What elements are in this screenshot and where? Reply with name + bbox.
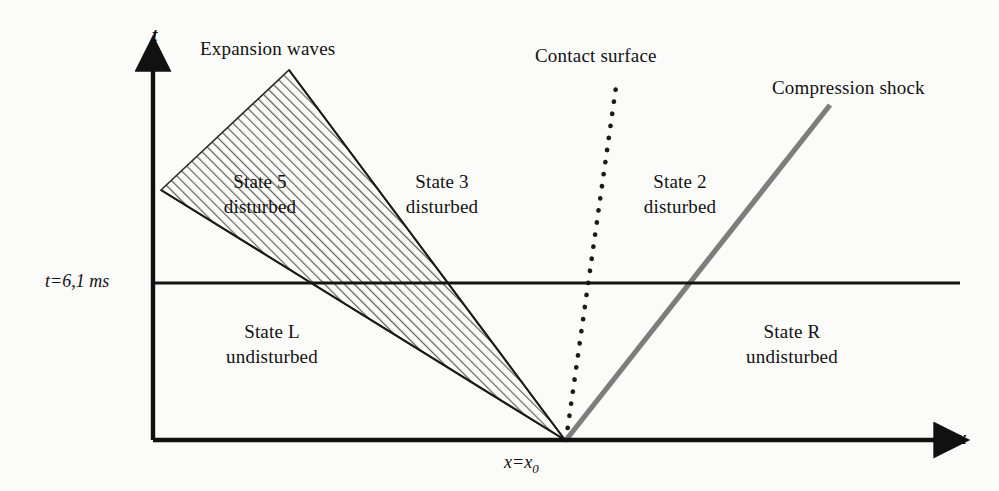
region-label-state-2: State 2 disturbed xyxy=(616,169,744,219)
region-label-state-l-line1: State L xyxy=(197,319,347,344)
t-axis-label: t xyxy=(152,24,157,46)
compression-shock-line xyxy=(566,105,830,440)
compression-shock-annotation: Compression shock xyxy=(772,76,925,100)
region-label-state-r: State R undisturbed xyxy=(717,319,867,369)
region-label-state-3-line2: disturbed xyxy=(378,194,506,219)
origin-x0-text: x=x xyxy=(504,452,532,472)
x-axis-label: x xyxy=(957,427,967,449)
region-label-state-r-line2: undisturbed xyxy=(717,344,867,369)
diagram-canvas xyxy=(0,0,999,491)
region-label-state-l: State L undisturbed xyxy=(197,319,347,369)
wave-diagram-figure: t x t=6,1 ms x=x0 Expansion waves Contac… xyxy=(0,0,999,491)
expansion-waves-annotation: Expansion waves xyxy=(200,37,335,61)
region-label-state-2-line2: disturbed xyxy=(616,194,744,219)
region-label-state-5: State 5 disturbed xyxy=(196,169,324,219)
region-label-state-r-line1: State R xyxy=(717,319,867,344)
region-label-state-5-line2: disturbed xyxy=(196,194,324,219)
region-label-state-3-line1: State 3 xyxy=(378,169,506,194)
contact-surface-annotation: Contact surface xyxy=(535,44,657,68)
region-label-state-3: State 3 disturbed xyxy=(378,169,506,219)
origin-x0-label: x=x0 xyxy=(504,452,539,477)
region-label-state-5-line1: State 5 xyxy=(196,169,324,194)
region-label-state-2-line1: State 2 xyxy=(616,169,744,194)
expansion-fan-hatched-region xyxy=(161,70,565,440)
time-tick-label: t=6,1 ms xyxy=(45,271,109,292)
region-label-state-l-line2: undisturbed xyxy=(197,344,347,369)
origin-x0-subscript: 0 xyxy=(532,461,539,476)
